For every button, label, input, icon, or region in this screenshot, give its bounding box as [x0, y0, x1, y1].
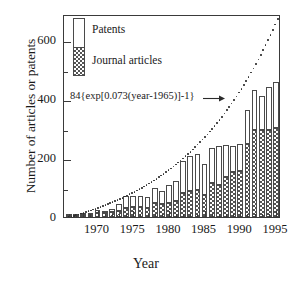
- curve-point: [190, 151, 192, 153]
- bar-segment-journal-articles: [223, 177, 229, 217]
- y-tick-label-0: 0: [16, 210, 56, 225]
- curve-point: [177, 162, 179, 164]
- curve-point: [260, 54, 262, 56]
- curve-point: [233, 99, 235, 101]
- curve-point: [141, 187, 143, 189]
- x-tick-minor-1988: [226, 214, 227, 218]
- x-tick-minor-1991: [247, 214, 248, 218]
- bar-1984: [195, 154, 201, 217]
- bar-segment-patents: [166, 185, 172, 203]
- curve-point: [97, 207, 99, 209]
- curve-point: [173, 166, 175, 168]
- curve-point: [151, 181, 153, 183]
- curve-point: [209, 131, 211, 133]
- curve-point: [262, 49, 264, 51]
- curve-point: [129, 193, 131, 195]
- bar-1986: [209, 148, 215, 217]
- x-tick-minor-1974: [126, 214, 127, 218]
- bar-segment-journal-articles: [245, 144, 251, 217]
- bar-1991: [245, 110, 251, 217]
- x-tick-minor-1969: [90, 214, 91, 218]
- x-tick-minor-1982: [183, 214, 184, 218]
- x-tick-1975: [133, 211, 134, 217]
- x-tick-minor-1983: [190, 214, 191, 218]
- curve-point: [160, 175, 162, 177]
- curve-point: [258, 59, 260, 61]
- y-tick-200: [64, 160, 71, 161]
- model-annotation-text: 84{exp[0.073(year-1965)]-1}: [70, 90, 194, 101]
- x-tick-minor-1984: [197, 214, 198, 218]
- bar-segment-patents: [116, 204, 122, 211]
- bar-segment-journal-articles: [273, 128, 279, 217]
- x-tick-label-1970: 1970: [77, 222, 117, 237]
- curve-point: [136, 190, 138, 192]
- curve-point: [148, 183, 150, 185]
- x-tick-1990: [240, 211, 241, 217]
- y-tick-600: [64, 42, 71, 43]
- arrow-right-icon: [203, 94, 225, 103]
- bar-1982: [180, 161, 186, 217]
- x-tick-minor-1972: [112, 214, 113, 218]
- bar-segment-journal-articles: [209, 183, 215, 217]
- legend-swatch-bar: [73, 18, 85, 76]
- curve-point: [153, 180, 155, 182]
- x-tick-minor-1968: [83, 214, 84, 218]
- x-tick-minor-1981: [176, 214, 177, 218]
- bar-1993: [259, 96, 265, 217]
- bar-segment-patents: [273, 82, 279, 128]
- y-tick-minor-500: [64, 72, 68, 73]
- bar-segment-patents: [252, 90, 258, 130]
- curve-point: [207, 134, 209, 136]
- x-tick-minor-1967: [76, 214, 77, 218]
- x-tick-label-1980: 1980: [148, 222, 188, 237]
- x-tick-minor-1993: [262, 214, 263, 218]
- curve-point: [78, 214, 80, 216]
- y-tick-label-400: 400: [16, 92, 56, 107]
- curve-point: [139, 188, 141, 190]
- y-tick-label-200: 200: [16, 151, 56, 166]
- curve-point: [199, 141, 201, 143]
- x-tick-label-1985: 1985: [184, 222, 224, 237]
- bar-1983: [187, 156, 193, 217]
- curve-point: [119, 198, 121, 200]
- curve-point: [182, 158, 184, 160]
- curve-point: [117, 199, 119, 201]
- curve-point: [163, 173, 165, 175]
- curve-point: [236, 96, 238, 98]
- curve-point: [105, 204, 107, 206]
- y-tick-400: [64, 101, 71, 102]
- curve-point: [255, 63, 257, 65]
- bar-segment-patents: [266, 87, 272, 130]
- curve-point: [253, 68, 255, 70]
- x-tick-minor-1987: [219, 214, 220, 218]
- curve-point: [197, 144, 199, 146]
- curve-point: [114, 200, 116, 202]
- bar-segment-patents: [209, 148, 215, 183]
- curve-point: [90, 210, 92, 212]
- curve-point: [241, 88, 243, 90]
- curve-point: [143, 186, 145, 188]
- bar-segment-journal-articles: [230, 172, 236, 217]
- bar-1990: [237, 144, 243, 217]
- curve-point: [122, 197, 124, 199]
- curve-point: [231, 103, 233, 105]
- curve-point: [107, 203, 109, 205]
- bar-1981: [173, 181, 179, 217]
- curve-point: [168, 169, 170, 171]
- curve-point: [202, 139, 204, 141]
- x-axis-title: Year: [0, 256, 292, 272]
- curve-point: [194, 146, 196, 148]
- bar-segment-patents: [245, 110, 251, 144]
- plot-area: Patents Journal articles 84{exp[0.073(ye…: [63, 15, 280, 218]
- bar-segment-patents: [230, 146, 236, 172]
- bar-1989: [230, 146, 236, 217]
- curve-point: [216, 122, 218, 124]
- x-tick-minor-1973: [119, 214, 120, 218]
- curve-point: [109, 202, 111, 204]
- x-tick-minor-1992: [255, 214, 256, 218]
- curve-point: [100, 206, 102, 208]
- x-tick-minor-1994: [269, 214, 270, 218]
- x-tick-minor-1986: [212, 214, 213, 218]
- chart-figure: Number of articles or patents 0200400600…: [0, 0, 292, 283]
- bar-segment-patents: [195, 154, 201, 190]
